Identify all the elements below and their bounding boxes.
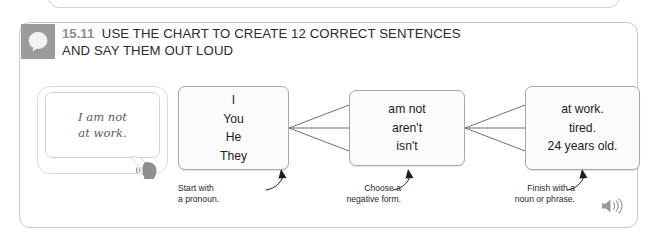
exercise-header: 15.11 USE THE CHART TO CREATE 12 CORRECT… bbox=[20, 23, 638, 68]
exercise-heading: 15.11 USE THE CHART TO CREATE 12 CORRECT… bbox=[62, 26, 622, 59]
screenshot-root: 15.11 USE THE CHART TO CREATE 12 CORRECT… bbox=[0, 0, 657, 243]
option-pronoun-1[interactable]: You bbox=[223, 110, 244, 129]
caption-pronoun: Start with a pronoun. bbox=[178, 183, 273, 205]
option-negative-2[interactable]: isn't bbox=[396, 137, 417, 156]
exercise-instruction: USE THE CHART TO CREATE 12 CORRECT SENTE… bbox=[62, 26, 461, 58]
option-pronoun-0[interactable]: I bbox=[232, 91, 235, 110]
option-pronoun-2[interactable]: He bbox=[226, 128, 242, 147]
noun-phrase-options-box[interactable]: at work. tired. 24 years old. bbox=[525, 86, 640, 170]
caption-negative-form: Choose a negative form. bbox=[301, 183, 401, 205]
pronoun-options-box[interactable]: I You He They bbox=[178, 86, 289, 170]
exercise-panel: 15.11 USE THE CHART TO CREATE 12 CORRECT… bbox=[19, 22, 638, 228]
speech-bubble-icon bbox=[21, 24, 55, 59]
speaker-icon[interactable] bbox=[599, 196, 625, 216]
option-pronoun-3[interactable]: They bbox=[220, 147, 247, 166]
example-sentence: I am not at work. bbox=[45, 92, 160, 158]
speaking-head-icon bbox=[136, 160, 162, 180]
option-phrase-1[interactable]: tired. bbox=[569, 119, 596, 138]
option-phrase-2[interactable]: 24 years old. bbox=[548, 137, 618, 156]
option-negative-0[interactable]: am not bbox=[388, 100, 425, 119]
option-negative-1[interactable]: aren't bbox=[392, 119, 422, 138]
option-phrase-0[interactable]: at work. bbox=[561, 100, 604, 119]
sentence-chart: I am not at work. I You He They am not a… bbox=[20, 68, 638, 228]
exercise-number: 15.11 bbox=[62, 26, 94, 41]
caption-noun-phrase: Finish with a noun or phrase. bbox=[475, 183, 575, 205]
negative-form-options-box[interactable]: am not aren't isn't bbox=[349, 90, 465, 166]
previous-exercise-panel bbox=[48, 0, 620, 8]
